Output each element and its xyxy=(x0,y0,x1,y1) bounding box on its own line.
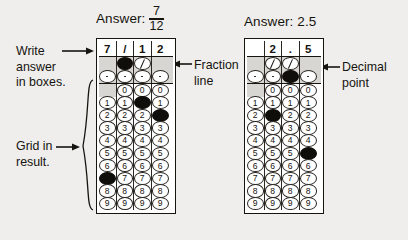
digit-bubble[interactable]: 6 xyxy=(117,159,134,172)
digit-bubble-cell[interactable]: 2 xyxy=(152,109,170,122)
digit-bubble[interactable]: 2 xyxy=(99,109,116,122)
digit-bubble[interactable]: 4 xyxy=(265,134,282,147)
digit-bubble[interactable]: 4 xyxy=(99,134,116,147)
digit-bubble-cell[interactable]: 3 xyxy=(99,122,117,135)
decimal-point-bubble-cell[interactable] xyxy=(117,70,135,83)
digit-bubble-cell[interactable]: 6 xyxy=(247,160,265,173)
digit-bubble-cell[interactable]: 4 xyxy=(99,134,117,147)
decimal-answer-grid[interactable]: 2.50001111222233334444555566667777888899… xyxy=(244,38,324,214)
digit-bubble[interactable]: 0 xyxy=(117,84,134,97)
decimal-point-bubble-cell[interactable] xyxy=(300,70,318,83)
digit-bubble-cell[interactable]: 6 xyxy=(134,160,152,173)
digit-bubble-cell[interactable]: 2 xyxy=(265,109,283,122)
decimal-point-bubble-cell[interactable] xyxy=(265,70,283,83)
digit-bubble[interactable]: 8 xyxy=(152,184,170,197)
digit-bubble[interactable]: 2 xyxy=(117,109,134,122)
digit-bubble[interactable]: 8 xyxy=(247,184,264,197)
digit-bubble[interactable]: 3 xyxy=(265,121,282,134)
digit-bubble[interactable]: 0 xyxy=(152,84,170,97)
digit-bubble-cell[interactable]: 2 xyxy=(134,109,152,122)
digit-bubble[interactable]: 7 xyxy=(134,172,151,185)
decimal-point-bubble-cell[interactable] xyxy=(152,70,170,83)
digit-bubble[interactable]: 1 xyxy=(99,96,116,109)
digit-bubble-cell[interactable]: 8 xyxy=(117,185,135,198)
digit-bubble-cell[interactable]: 3 xyxy=(265,122,283,135)
digit-bubble[interactable]: 8 xyxy=(99,184,116,197)
slash-bubble-filled[interactable] xyxy=(117,57,134,70)
digit-bubble-cell[interactable]: 7 xyxy=(99,172,117,185)
digit-bubble-cell[interactable]: 8 xyxy=(134,185,152,198)
digit-bubble-cell[interactable]: 5 xyxy=(117,147,135,160)
digit-bubble-cell[interactable]: 0 xyxy=(265,84,283,97)
digit-bubble-cell[interactable]: 1 xyxy=(282,97,300,110)
digit-bubble-cell[interactable]: 2 xyxy=(300,109,318,122)
digit-bubble-cell[interactable]: 4 xyxy=(265,134,283,147)
decimal-bubble[interactable] xyxy=(134,70,151,83)
decimal-point-bubble-cell[interactable] xyxy=(282,70,300,83)
digit-bubble-cell[interactable]: 9 xyxy=(247,197,265,210)
digit-bubble-cell[interactable]: 6 xyxy=(152,160,170,173)
digit-bubble[interactable]: 8 xyxy=(282,184,299,197)
digit-bubble-cell[interactable]: 1 xyxy=(152,97,170,110)
decimal-point-bubble-cell[interactable] xyxy=(99,70,117,83)
digit-bubble[interactable]: 2 xyxy=(134,109,151,122)
digit-bubble[interactable]: 9 xyxy=(300,197,318,210)
digit-bubble-cell[interactable]: 4 xyxy=(282,134,300,147)
digit-bubble-cell[interactable]: 9 xyxy=(99,197,117,210)
digit-bubble[interactable]: 7 xyxy=(117,172,134,185)
digit-bubble-cell[interactable]: 1 xyxy=(300,97,318,110)
digit-bubble[interactable]: 8 xyxy=(134,184,151,197)
digit-bubble[interactable]: 2 xyxy=(247,109,264,122)
digit-bubble-cell[interactable]: 3 xyxy=(134,122,152,135)
digit-bubble[interactable]: 1 xyxy=(300,96,318,109)
digit-bubble[interactable]: 6 xyxy=(99,159,116,172)
digit-bubble[interactable]: 3 xyxy=(152,121,170,134)
digit-bubble[interactable]: 5 xyxy=(282,147,299,160)
digit-bubble[interactable]: 7 xyxy=(300,172,318,185)
digit-bubble[interactable]: 6 xyxy=(265,159,282,172)
digit-bubble-cell[interactable]: 3 xyxy=(247,122,265,135)
digit-bubble-cell[interactable]: 3 xyxy=(300,122,318,135)
fraction-line-bubble-cell[interactable] xyxy=(117,57,135,70)
digit-bubble[interactable]: 9 xyxy=(117,197,134,210)
digit-bubble-cell[interactable]: 5 xyxy=(300,147,318,160)
decimal-bubble[interactable] xyxy=(265,70,282,83)
digit-bubble-cell[interactable]: 8 xyxy=(300,185,318,198)
digit-bubble-cell[interactable]: 5 xyxy=(134,147,152,160)
digit-bubble-cell[interactable]: 1 xyxy=(247,97,265,110)
digit-bubble[interactable]: 2 xyxy=(282,109,299,122)
digit-bubble-cell[interactable]: 7 xyxy=(265,172,283,185)
decimal-bubble-filled[interactable] xyxy=(282,70,299,83)
digit-bubble-cell[interactable]: 4 xyxy=(247,134,265,147)
digit-bubble[interactable]: 3 xyxy=(99,121,116,134)
written-answer-cell[interactable]: 1 xyxy=(134,41,152,56)
written-answer-cell[interactable]: 7 xyxy=(99,41,117,56)
digit-bubble-cell[interactable]: 0 xyxy=(300,84,318,97)
digit-bubble[interactable]: 1 xyxy=(282,96,299,109)
digit-bubble-cell[interactable]: 9 xyxy=(300,197,318,210)
digit-bubble[interactable]: 6 xyxy=(282,159,299,172)
digit-bubble[interactable]: 8 xyxy=(117,184,134,197)
fraction-line-bubble-cell[interactable] xyxy=(265,57,283,70)
fraction-line-bubble-cell[interactable] xyxy=(282,57,300,70)
digit-bubble[interactable]: 9 xyxy=(265,197,282,210)
digit-bubble-cell[interactable]: 0 xyxy=(282,84,300,97)
digit-bubble-cell[interactable]: 3 xyxy=(117,122,135,135)
digit-bubble-cell[interactable]: 4 xyxy=(117,134,135,147)
digit-bubble-cell[interactable]: 3 xyxy=(282,122,300,135)
digit-bubble-cell[interactable]: 7 xyxy=(134,172,152,185)
digit-bubble-cell[interactable]: 8 xyxy=(282,185,300,198)
digit-bubble[interactable]: 4 xyxy=(300,134,318,147)
digit-bubble[interactable]: 5 xyxy=(134,147,151,160)
written-answer-cell[interactable]: 2 xyxy=(152,41,170,56)
written-answer-cell[interactable]: / xyxy=(117,41,135,56)
written-answer-cell[interactable]: 2 xyxy=(265,41,283,56)
digit-bubble-cell[interactable]: 2 xyxy=(282,109,300,122)
decimal-bubble[interactable] xyxy=(247,70,264,83)
decimal-bubble[interactable] xyxy=(152,70,170,83)
digit-bubble-cell[interactable]: 5 xyxy=(152,147,170,160)
digit-bubble[interactable]: 3 xyxy=(282,121,299,134)
slash-bubble[interactable] xyxy=(282,57,299,70)
digit-bubble-cell[interactable]: 4 xyxy=(152,134,170,147)
decimal-bubble[interactable] xyxy=(117,70,134,83)
